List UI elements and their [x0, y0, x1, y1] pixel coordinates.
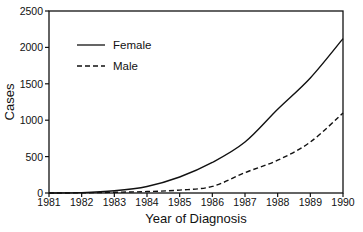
y-axis-ticks: 05001000150020002500: [20, 5, 49, 199]
legend: Female Male: [77, 39, 151, 72]
x-tick-label: 1985: [168, 196, 192, 208]
x-tick-label: 1984: [135, 196, 159, 208]
y-tick-label: 1500: [20, 78, 44, 90]
x-tick-label: 1989: [299, 196, 323, 208]
x-axis-ticks: 1981198219831984198519861987198819891990: [37, 193, 355, 208]
y-tick-label: 2000: [20, 41, 44, 53]
plot-frame: [49, 11, 343, 193]
x-tick-label: 1986: [201, 196, 225, 208]
x-tick-label: 1990: [331, 196, 355, 208]
series-line-male: [49, 113, 343, 193]
plot-area: [49, 11, 343, 193]
x-tick-label: 1983: [103, 196, 127, 208]
y-axis-label: Cases: [2, 83, 17, 120]
x-tick-label: 1988: [266, 196, 290, 208]
y-tick-label: 1000: [20, 114, 44, 126]
line-chart: 05001000150020002500 1981198219831984198…: [0, 0, 363, 232]
x-tick-label: 1981: [37, 196, 61, 208]
legend-male-label: Male: [113, 60, 138, 72]
y-tick-label: 500: [25, 151, 43, 163]
legend-female-label: Female: [113, 39, 151, 51]
y-tick-label: 2500: [20, 5, 44, 17]
x-tick-label: 1987: [233, 196, 257, 208]
x-tick-label: 1982: [70, 196, 94, 208]
x-axis-label: Year of Diagnosis: [145, 211, 247, 226]
series-line-female: [49, 39, 343, 193]
